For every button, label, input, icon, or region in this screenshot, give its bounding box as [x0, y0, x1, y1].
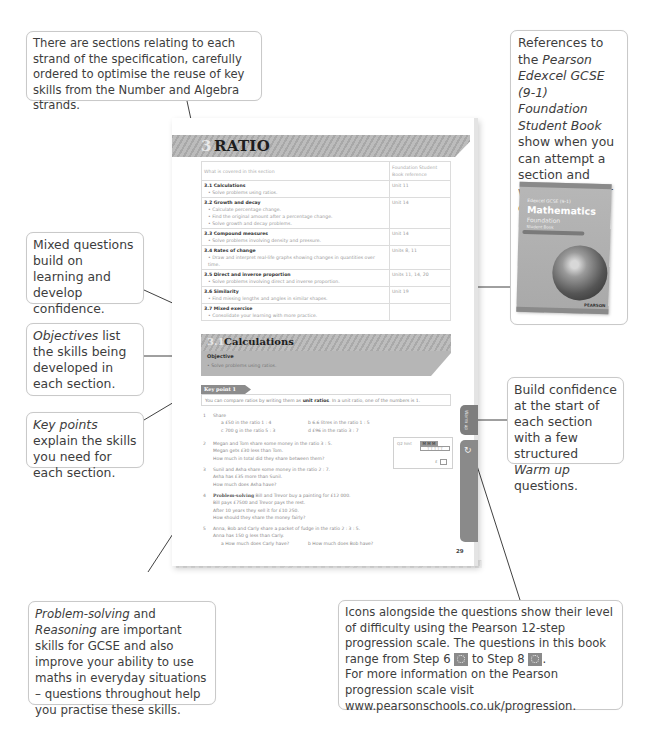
question-4: 4 Problem-solving Bill and Trevor buy a … — [213, 492, 423, 521]
key-point-text: You can compare ratios by writing them a… — [205, 398, 303, 403]
book-strip-top — [520, 182, 612, 189]
section-ref — [390, 304, 451, 321]
section-ref: Units 8, 11 — [390, 246, 451, 270]
section-number: 3.1 — [207, 336, 224, 347]
section-bullet: • Solve problems using ratios. — [204, 189, 387, 196]
objective-label: Objective — [207, 353, 234, 359]
section-header: 3.1 Calculations — [201, 334, 451, 351]
step-6-icon — [454, 653, 468, 666]
problem-solving-label: Problem-solving — [213, 493, 254, 498]
key-point-bold: unit ratios — [303, 398, 329, 403]
callout-icons-line2: For more information on the Pearson prog… — [345, 667, 576, 712]
question-line: How much in total did they share between… — [213, 455, 413, 462]
question-number: 5 — [203, 525, 206, 532]
callout-problem-italic1: Problem-solving — [35, 607, 130, 621]
question-2: 2 Megan and Tom share some money in the … — [213, 440, 413, 462]
section-heading: Calculations — [224, 336, 294, 347]
question-number: 1 — [203, 412, 206, 419]
key-point-text-post: . In a unit ratio, one of the numbers is… — [329, 398, 420, 403]
callout-warmup-pre: Build confidence at the start of each se… — [514, 382, 617, 461]
section-ref: Unit 14 — [390, 229, 451, 246]
callout-icons: Icons alongside the questions show their… — [338, 600, 623, 710]
section-ref: Unit 19 — [390, 287, 451, 304]
section-title: 3.7 Mixed exercise — [204, 305, 387, 312]
question-part: a £50 in the ratio 1 : 4 — [213, 419, 308, 426]
question-part: b 6.6 litres in the ratio 1 : 5 — [308, 419, 370, 426]
section-ref: Unit 14 — [390, 198, 451, 229]
warm-up-tab: Warm up — [460, 405, 478, 435]
question-line: Bill and Trevor buy a painting for £12 0… — [254, 493, 350, 498]
chapter-number: 3 — [201, 137, 211, 155]
question-part: c 700 g in the ratio 5 : 3 — [213, 427, 308, 434]
section-title: 3.2 Growth and decay — [204, 199, 387, 206]
table-row: 3.1 Calculations• Solve problems using r… — [202, 181, 451, 198]
question-line: How should they share the money fairly? — [213, 514, 423, 521]
callout-key-points: Key points explain the skills you need f… — [26, 412, 144, 468]
bar-model-tom: T T T T T — [420, 446, 450, 451]
objective-item: • Solve problems using ratios. — [207, 363, 276, 368]
contents-header-row: What is covered in this section Foundati… — [202, 162, 451, 181]
warm-up-tab-label: Warm up — [464, 410, 469, 430]
hint-label: Q2 hint — [397, 441, 412, 446]
section-bullet: • Solve problems involving direct and in… — [204, 278, 387, 285]
answer-box — [440, 459, 447, 465]
question-part: b How much does Bob have? — [308, 540, 373, 547]
callout-sections-text: There are sections relating to each stra… — [33, 36, 244, 112]
progression-icon: ↻ — [464, 445, 472, 455]
callout-objectives-italic: Objectives — [33, 328, 98, 343]
callout-problem-mid: and — [130, 607, 156, 621]
section-ref: Unit 11 — [390, 181, 451, 198]
callout-problem-italic2: Reasoning — [35, 623, 97, 637]
callout-problem-text: are important skills for GCSE and also i… — [35, 623, 207, 717]
section-bullet: • Calculate percentage change. — [204, 206, 387, 213]
callout-keypoints-italic: Key points — [33, 417, 98, 432]
question-3: 3 Sunil and Asha share some money in the… — [213, 466, 413, 488]
question-line: Anna has 150 g less than Carly. — [213, 532, 423, 539]
question-number: 3 — [203, 466, 206, 473]
pound-label: £ — [435, 459, 438, 464]
callout-sections: There are sections relating to each stra… — [26, 31, 262, 101]
question-line: How much does Asha have? — [213, 481, 413, 488]
callout-keypoints-text: explain the skills you need for each sec… — [33, 433, 137, 480]
question-part: a How much does Carly have? — [213, 540, 308, 547]
question-stem: Share — [213, 412, 413, 419]
section-title: 3.4 Rates of change — [204, 247, 387, 254]
question-line: Sunil and Asha share some money in the r… — [213, 466, 413, 473]
table-row: 3.2 Growth and decay • Calculate percent… — [202, 198, 451, 229]
contents-header-reference: Foundation Student Book reference — [390, 162, 451, 181]
question-number: 2 — [203, 440, 206, 447]
callout-warmup-italic: Warm up — [514, 462, 570, 477]
table-row: 3.4 Rates of change• Draw and interpret … — [202, 246, 451, 270]
book-cover-sphere — [552, 245, 608, 301]
question-part: d £96 in the ratio 3 : 7 — [308, 427, 359, 434]
section-title: 3.6 Similarity — [204, 288, 387, 295]
callout-problem-solving: Problem-solving and Reasoning are import… — [28, 601, 216, 705]
key-point-tab: Key point 1 — [201, 385, 251, 394]
table-row: 3.3 Compound measures• Solve problems in… — [202, 229, 451, 246]
question-line: Asha has £35 more than Sunil. — [213, 473, 413, 480]
book-cover-image: Edexcel GCSE (9-1) Mathematics Foundatio… — [516, 182, 611, 314]
callout-objectives: Objectives list the skills being develop… — [26, 323, 144, 396]
callout-mixed-questions: Mixed questions build on learning and de… — [26, 232, 144, 304]
book-cover-subtitle: Foundation — [527, 216, 561, 224]
section-ref: Units 11, 14, 20 — [390, 270, 451, 287]
question-line: After 10 years they sell it for £10 250. — [213, 507, 423, 514]
question-5: 5 Anna, Bob and Carly share a packet of … — [213, 525, 423, 547]
chapter-banner: 3 RATIO — [172, 135, 470, 157]
section-bullet: • Solve problems involving density and p… — [204, 237, 387, 244]
section-title: 3.5 Direct and inverse proportion — [204, 271, 387, 278]
step-progress-tab: ↻ — [460, 440, 478, 542]
table-row: 3.5 Direct and inverse proportion• Solve… — [202, 270, 451, 287]
section-bullet: • Solve growth and decay problems. — [204, 220, 387, 227]
callout-warm-up: Build confidence at the start of each se… — [507, 377, 624, 464]
book-cover-bar — [522, 230, 584, 236]
question-number: 4 — [203, 492, 206, 499]
section-bullet: • Consolidate your learning with more pr… — [204, 312, 387, 319]
contents-header-covered: What is covered in this section — [202, 162, 390, 181]
section-bullet: • Draw and interpret real-life graphs sh… — [204, 254, 387, 268]
question-line: Bill pays £7500 and Trevor pays the rest… — [213, 499, 423, 506]
hint-box: Q2 hint M M M T T T T T £ — [393, 437, 453, 469]
page-number: 29 — [456, 548, 464, 554]
question-line: Megan and Tom share some money in the ra… — [213, 440, 413, 447]
section-banner: 3.1 Calculations Objective • Solve probl… — [201, 334, 451, 376]
